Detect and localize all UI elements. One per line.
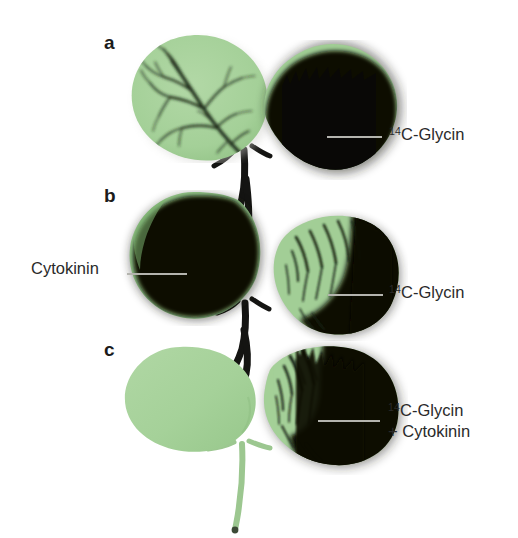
- leaf-c-right: [246, 340, 408, 475]
- label-a-superscript: 14: [389, 125, 401, 137]
- panel-letter-b: b: [104, 186, 116, 205]
- label-c-text-plus-cytokinin: + Cytokinin: [388, 421, 470, 442]
- label-a-text: C-Glycin: [401, 125, 464, 143]
- leaf-b-left: [118, 190, 273, 326]
- leader-line-a-right: [327, 136, 382, 138]
- leader-line-b-left: [127, 273, 187, 275]
- plant-a: [118, 30, 408, 205]
- leader-line-b-right: [328, 294, 383, 296]
- leaf-a-right: [252, 40, 407, 180]
- label-b-cytokinin: Cytokinin: [31, 258, 99, 279]
- label-b-glycin: 14C-Glycin: [389, 282, 464, 303]
- label-b-superscript: 14: [389, 283, 401, 295]
- panel-letter-c: c: [104, 340, 115, 359]
- figure-canvas: a: [0, 0, 518, 538]
- label-b-text: Cytokinin: [31, 259, 99, 277]
- label-c-superscript: 14: [388, 401, 400, 413]
- label-b-text-glycin: C-Glycin: [401, 283, 464, 301]
- plant-c: [118, 340, 408, 530]
- label-c-glycin-cytokinin: 14C-Glycin + Cytokinin: [388, 400, 470, 442]
- panel-letter-a: a: [104, 33, 115, 52]
- leaf-b-right: [256, 209, 408, 341]
- label-a-glycin: 14C-Glycin: [389, 124, 464, 145]
- leader-line-c-right: [318, 420, 380, 422]
- label-c-text-glycin: C-Glycin: [400, 401, 463, 419]
- leaf-c-left: [120, 345, 260, 455]
- leaf-a-left: [124, 33, 272, 163]
